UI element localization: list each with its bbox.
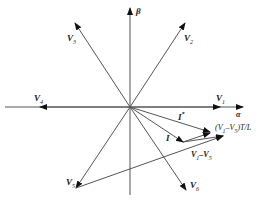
vector-v5: [76, 107, 130, 188]
label-v1-minus-v5: V1–V5: [191, 151, 212, 161]
label-i-ref: I*: [178, 111, 185, 122]
label-v5: V5: [66, 178, 75, 189]
vector-v1-minus-v5: [76, 136, 223, 188]
vector-v2: [130, 23, 185, 107]
label-v4: V4: [34, 94, 43, 105]
label-i: I: [166, 134, 170, 143]
vector-scaled-diff: [183, 136, 223, 142]
label-scaled-diff: (V1–V5)T/L: [215, 124, 251, 134]
label-v1: V1: [216, 94, 225, 105]
vector-i: [130, 107, 183, 142]
vector-delta-i: [183, 133, 210, 142]
vector-i-ref: [130, 107, 210, 132]
beta-axis-label: β: [136, 7, 141, 16]
vector-v3: [75, 23, 130, 107]
label-v3: V3: [67, 34, 76, 45]
label-v6: V6: [190, 181, 199, 192]
alpha-axis-label: α: [236, 111, 240, 119]
label-v2: V2: [184, 34, 193, 45]
